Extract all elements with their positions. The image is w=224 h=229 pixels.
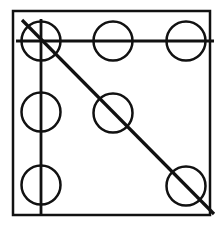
diagonal-line bbox=[22, 20, 214, 214]
figure-canvas bbox=[0, 0, 224, 229]
line-group bbox=[16, 19, 214, 216]
